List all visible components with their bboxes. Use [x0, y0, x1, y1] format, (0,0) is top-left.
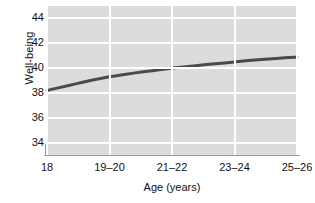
gridline-vertical — [234, 6, 236, 155]
x-axis-title: Age (years) — [46, 181, 298, 193]
x-axis-line — [44, 155, 300, 156]
y-tick-label: 36 — [18, 112, 44, 123]
x-tick-label: 18 — [17, 161, 77, 173]
plot-area — [46, 6, 298, 155]
y-tick-label: 44 — [18, 12, 44, 23]
x-tick-label: 21–22 — [142, 161, 202, 173]
gridline-vertical — [171, 6, 173, 155]
y-tick-label: 38 — [18, 87, 44, 98]
x-tick-label: 19–20 — [80, 161, 140, 173]
gridline-vertical — [109, 6, 111, 155]
y-tick-label: 42 — [18, 37, 44, 48]
x-tick-label: 23–24 — [205, 161, 265, 173]
chart-figure: Well-being 343638404244 1819–2021–2223–2… — [0, 0, 315, 203]
x-tick-label: 25–26 — [267, 161, 315, 173]
y-tick-label: 40 — [18, 62, 44, 73]
gridline-vertical — [296, 6, 298, 155]
y-axis-line — [45, 144, 46, 156]
gridline-vertical — [46, 6, 48, 155]
y-tick-label: 34 — [18, 137, 44, 148]
